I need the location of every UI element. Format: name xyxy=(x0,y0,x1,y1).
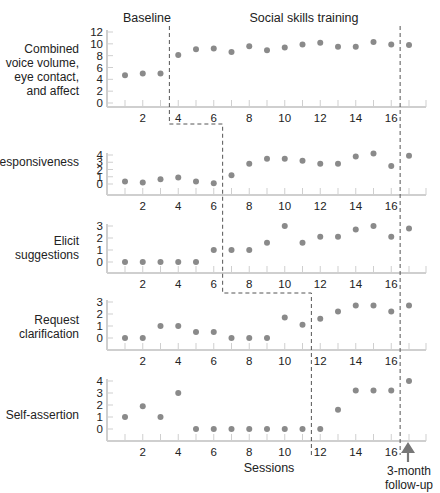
data-point xyxy=(406,153,412,159)
y-tick-label: 4 xyxy=(97,149,104,161)
panel-label: suggestions xyxy=(15,248,79,262)
x-tick-label: 4 xyxy=(175,355,182,367)
data-point xyxy=(406,378,412,384)
data-point xyxy=(193,259,199,265)
data-point xyxy=(193,426,199,432)
data-point xyxy=(246,426,252,432)
y-tick-label: 4 xyxy=(97,375,104,387)
x-tick-label: 4 xyxy=(175,112,182,124)
data-point xyxy=(122,178,128,184)
data-point xyxy=(317,40,323,46)
data-point xyxy=(300,426,306,432)
y-tick-label: 6 xyxy=(97,62,103,74)
data-point xyxy=(317,426,323,432)
x-tick-label: 8 xyxy=(246,355,252,367)
data-point xyxy=(300,240,306,246)
x-tick-label: 6 xyxy=(211,278,217,290)
data-point xyxy=(335,44,341,50)
y-tick-label: 1 xyxy=(97,244,103,256)
y-tick-label: 0 xyxy=(97,97,103,109)
data-point xyxy=(229,49,235,55)
x-tick-label: 12 xyxy=(314,278,327,290)
multiple-baseline-chart: Baseline Social skills training Combined… xyxy=(0,0,440,493)
data-point xyxy=(264,240,270,246)
data-point xyxy=(388,234,394,240)
y-tick-label: 2 xyxy=(97,85,103,97)
x-tick-label: 14 xyxy=(349,446,362,458)
data-point xyxy=(353,44,359,50)
x-tick-label: 2 xyxy=(140,278,146,290)
y-tick-label: 1 xyxy=(97,320,103,332)
x-tick-label: 2 xyxy=(140,446,146,458)
x-tick-label: 4 xyxy=(175,278,182,290)
data-point xyxy=(211,426,217,432)
y-tick-label: 8 xyxy=(97,50,103,62)
data-point xyxy=(211,329,217,335)
data-point xyxy=(371,223,377,229)
data-point xyxy=(371,39,377,45)
data-point xyxy=(317,316,323,322)
x-tick-label: 8 xyxy=(246,112,252,124)
panel-label: Combined xyxy=(24,42,79,56)
data-point xyxy=(335,309,341,315)
data-point xyxy=(175,259,181,265)
data-point xyxy=(335,407,341,413)
data-point xyxy=(264,47,270,53)
data-point xyxy=(211,46,217,52)
data-point xyxy=(406,303,412,309)
data-point xyxy=(282,315,288,321)
data-point xyxy=(282,223,288,229)
x-tick-label: 2 xyxy=(140,112,146,124)
y-tick-label: 3 xyxy=(97,296,103,308)
data-point xyxy=(282,426,288,432)
panels: Combinedvoice volume,eye contact,and aff… xyxy=(0,26,426,458)
data-point xyxy=(264,156,270,162)
x-tick-label: 14 xyxy=(349,112,362,124)
data-point xyxy=(264,426,270,432)
phase-change-lines xyxy=(169,26,400,455)
panel: Self-assertion01234246810121416 xyxy=(6,375,426,458)
x-tick-label: 16 xyxy=(385,278,398,290)
y-tick-label: 1 xyxy=(97,411,103,423)
x-axis-label: Sessions xyxy=(244,461,295,475)
followup-label-line1: 3-month xyxy=(387,464,431,478)
x-tick-label: 4 xyxy=(175,446,182,458)
data-point xyxy=(140,180,146,186)
data-point xyxy=(353,388,359,394)
data-point xyxy=(317,161,323,167)
data-point xyxy=(175,52,181,58)
data-point xyxy=(246,43,252,49)
x-tick-label: 10 xyxy=(278,112,291,124)
data-point xyxy=(158,70,164,76)
y-tick-label: 0 xyxy=(97,423,103,435)
data-point xyxy=(282,156,288,162)
data-point xyxy=(122,335,128,341)
data-point xyxy=(317,234,323,240)
followup-label-line2: follow-up xyxy=(385,478,433,492)
panel-label: Elicit xyxy=(54,234,80,248)
data-point xyxy=(335,234,341,240)
baseline-label: Baseline xyxy=(123,11,171,25)
data-point xyxy=(388,163,394,169)
x-tick-label: 14 xyxy=(349,355,362,367)
x-tick-label: 12 xyxy=(314,112,327,124)
phase-change-line xyxy=(169,26,311,455)
panel-label: clarification xyxy=(19,327,79,341)
x-tick-label: 16 xyxy=(385,112,398,124)
x-tick-label: 2 xyxy=(140,355,146,367)
x-tick-label: 10 xyxy=(278,446,291,458)
x-tick-label: 6 xyxy=(211,200,217,212)
data-point xyxy=(140,335,146,341)
data-point xyxy=(211,247,217,253)
data-point xyxy=(229,426,235,432)
data-point xyxy=(282,44,288,50)
data-point xyxy=(388,41,394,47)
panel-label: Request xyxy=(34,313,79,327)
x-tick-label: 12 xyxy=(314,200,327,212)
y-tick-label: 0 xyxy=(97,256,103,268)
data-point xyxy=(353,303,359,309)
data-point xyxy=(175,174,181,180)
data-point xyxy=(158,323,164,329)
data-point xyxy=(406,42,412,48)
y-tick-label: 2 xyxy=(97,308,103,320)
